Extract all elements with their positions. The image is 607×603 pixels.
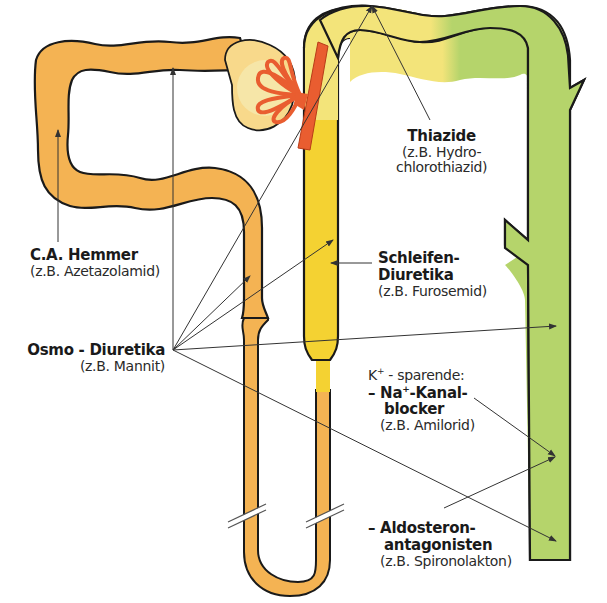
thiazide-example-2: chlorothiazid) [396,160,487,176]
aldosteron-line2: antagonisten [368,537,512,554]
schleifen-title-1: Schleifen- [378,250,487,267]
osmo-example: (z.B. Mannit) [27,359,165,375]
label-osmo-diuretika: Osmo - Diuretika (z.B. Mannit) [27,342,165,374]
ca-hemmer-title: C.A. Hemmer [30,247,160,264]
na-kanal-example: (z.B. Amilorid) [368,418,475,434]
osmo-title: Osmo - Diuretika [27,342,165,359]
aldosteron-line1: – Aldosteron- [368,520,512,537]
schleifen-example: (z.B. Furosemid) [378,284,487,300]
nephron-diagram [0,0,607,603]
arrow-osmo-collecting [173,326,556,350]
arrow-osmo-pct [173,276,250,350]
na-kanal-title: – Na+-Kanal- [368,384,475,402]
schleifen-title-2: Diuretika [378,267,487,284]
ascending-limb [304,8,350,392]
arrow-osmo-collecting-low [173,350,556,541]
label-thiazide: Thiazide (z.B. Hydro- chlorothiazid) [396,128,487,176]
thiazide-title: Thiazide [396,128,487,145]
na-kanal-line2: blocker [368,401,475,418]
label-k-sparende: K+ - sparende: – Na+-Kanal- blocker (z.B… [368,366,475,434]
aldosteron-example: (z.B. Spironolakton) [368,554,512,570]
label-schleifen-diuretika: Schleifen- Diuretika (z.B. Furosemid) [378,250,487,299]
k-sparende-heading: K+ - sparende: [368,366,475,384]
label-ca-hemmer: C.A. Hemmer (z.B. Azetazolamid) [30,247,160,279]
label-aldosteron: – Aldosteron- antagonisten (z.B. Spirono… [368,520,512,569]
thiazide-example-1: (z.B. Hydro- [396,145,487,161]
ca-hemmer-example: (z.B. Azetazolamid) [30,264,160,280]
